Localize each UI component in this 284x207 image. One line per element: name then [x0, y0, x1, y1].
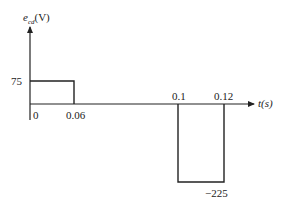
x-tick-0: 0	[33, 110, 39, 121]
y-axis-label: ecd(V)	[23, 12, 50, 26]
x-tick-006: 0.06	[66, 110, 85, 121]
waveform-diagram: ecd(V) 75 −225 0 0.06 0.1 0.12 t(s)	[0, 0, 284, 207]
y-label-unit: (V)	[35, 11, 50, 23]
negative-pulse	[178, 104, 224, 182]
y-tick-neg225: −225	[205, 188, 228, 199]
x-tick-01: 0.1	[172, 91, 186, 102]
y-label-subscript: cd	[28, 18, 35, 26]
waveform-plot	[0, 0, 284, 207]
x-tick-012: 0.12	[214, 91, 233, 102]
y-tick-75: 75	[11, 76, 22, 87]
positive-pulse	[30, 81, 74, 104]
x-axis-label: t(s)	[258, 98, 273, 109]
